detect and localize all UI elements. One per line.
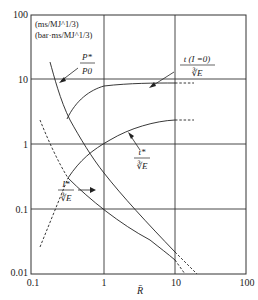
x-tick-10: 10 <box>171 277 181 288</box>
label-p-star-num: P* <box>81 52 92 62</box>
curve-t-i0 <box>67 83 175 119</box>
label-t-star-den: ∛E <box>136 160 148 171</box>
y-tick-100: 100 <box>13 9 28 20</box>
label-t-star-num: t* <box>138 147 146 157</box>
arrow-i-star-head <box>90 187 96 193</box>
curve-i-star-dashed-start <box>40 120 68 178</box>
label-p-star-den: P0 <box>81 66 92 76</box>
label-i-star-num: I* <box>61 179 70 189</box>
curve-i-star-dashed-end <box>175 260 185 274</box>
y-tick-0.1: 0.1 <box>16 204 29 215</box>
x-axis-label: R̄ <box>136 285 143 296</box>
plot-frame <box>31 15 246 274</box>
curve-p-star <box>50 62 175 252</box>
unit-line-2: (bar·ms/MJ^1/3) <box>35 30 93 40</box>
x-tick-1: 1 <box>102 277 107 288</box>
curve-t-star <box>68 120 175 178</box>
arrow-t-star-head <box>128 132 134 139</box>
x-tick-100: 100 <box>240 277 255 288</box>
y-tick-1: 1 <box>23 139 28 150</box>
label-t-i0-num: t (I =0) <box>184 54 211 64</box>
label-i-star-den: ∛E <box>60 192 72 203</box>
curve-p-star-dashed <box>175 252 197 274</box>
x-tick-0.1: 0.1 <box>27 277 40 288</box>
y-tick-10: 10 <box>18 74 28 85</box>
y-tick-0.01: 0.01 <box>11 267 29 278</box>
unit-line-1: (ms/MJ^1/3) <box>35 19 79 29</box>
label-t-i0-den: ∛E <box>191 67 203 78</box>
log-log-chart: 100 10 1 0.1 0.01 0.1 1 10 100 R̄ (ms/MJ… <box>0 0 258 300</box>
